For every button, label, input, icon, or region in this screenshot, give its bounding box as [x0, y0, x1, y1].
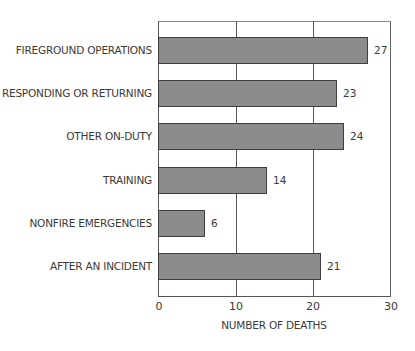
- bar: [158, 253, 321, 280]
- category-label: OTHER ON-DUTY: [66, 123, 152, 150]
- category-label: RESPONDING OR RETURNING: [2, 80, 152, 107]
- bar: [158, 167, 267, 194]
- x-tick-0: 0: [156, 300, 163, 313]
- bar-value-label: 6: [211, 210, 218, 237]
- category-label: AFTER AN INCIDENT: [50, 253, 152, 280]
- bar-value-label: 21: [327, 253, 340, 280]
- bar-value-label: 27: [374, 37, 387, 64]
- x-axis-label: NUMBER OF DEATHS: [221, 319, 327, 331]
- bar-value-label: 24: [350, 123, 363, 150]
- bar: [158, 37, 368, 64]
- bar: [158, 80, 337, 107]
- category-label: NONFIRE EMERGENCIES: [29, 210, 152, 237]
- category-label: TRAINING: [103, 167, 152, 194]
- bar-value-label: 14: [273, 167, 286, 194]
- horizontal-bar-chart: FIREGROUND OPERATIONS27RESPONDING OR RET…: [0, 0, 415, 351]
- category-label: FIREGROUND OPERATIONS: [16, 37, 152, 64]
- x-tick-10: 10: [229, 300, 243, 313]
- x-tick-30: 30: [384, 300, 398, 313]
- x-tick-20: 20: [306, 300, 320, 313]
- bar: [158, 123, 344, 150]
- bar-value-label: 23: [343, 80, 356, 107]
- bar: [158, 210, 205, 237]
